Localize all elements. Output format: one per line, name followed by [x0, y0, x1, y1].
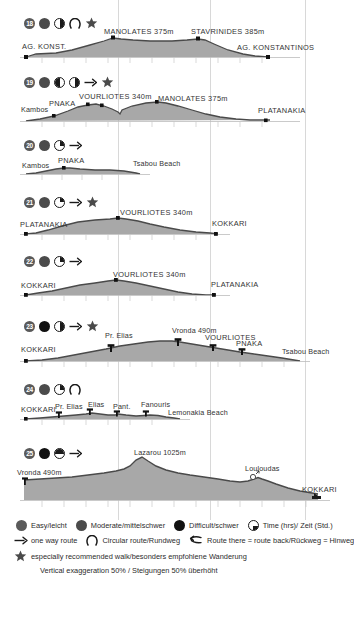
place-label: STAVRINIDES 385m [191, 27, 265, 36]
legend-row-difficulty: Easy/leicht Moderate/mittelschwer Diffic… [0, 520, 354, 531]
legend-label: Moderate/mittelschwer [91, 520, 165, 531]
clock-icon [54, 448, 65, 459]
place-label: Kambos [21, 105, 48, 114]
recommended-star-icon [86, 320, 99, 332]
legend-item-easy: Easy/leicht [16, 520, 67, 531]
place-label: PLATANAKIA [211, 280, 259, 289]
route-number-badge: 20 [24, 140, 35, 151]
legend-label: Easy/leicht [31, 520, 67, 531]
legend-label: Difficult/schwer [189, 520, 239, 531]
profile-block-21: 21 [0, 192, 354, 247]
difficulty-moderate-icon [39, 140, 50, 151]
difficulty-moderate-icon [39, 18, 50, 29]
difficulty-difficult-icon [39, 321, 50, 332]
place-label: Tsabou Beach [133, 159, 180, 168]
difficulty-easy-icon [16, 520, 27, 531]
place-label: KOKKARI [212, 219, 247, 228]
place-label: PLATANAKIA [20, 220, 68, 229]
clock-icon [54, 18, 65, 29]
place-label: VOURLIOTES 340m [120, 208, 193, 217]
legend-item-there-and-back: Route there = route back/Rückweg = Hinwe… [189, 535, 354, 546]
place-label: Lemonakia Beach [168, 408, 228, 417]
place-label: Pr. Elias [105, 331, 133, 340]
profile-block-25: 25 [0, 440, 354, 518]
legend-row-recommended: especially recommended walk/besonders em… [0, 550, 354, 562]
route-number-badge: 21 [24, 197, 35, 208]
place-label: KOKKARI [21, 281, 56, 290]
difficulty-moderate-icon [39, 197, 50, 208]
place-label: KOKKARI [21, 405, 56, 414]
legend-row-route-types: one way route Circular route/Rundweg Rou… [0, 535, 354, 546]
icon-row-21: 21 [24, 196, 99, 208]
difficulty-difficult-icon [174, 520, 185, 531]
place-label: PLATANAKIA [258, 106, 306, 115]
legend-label: Time (hrs)/ Zeit (Std.) [263, 520, 333, 531]
vertical-exaggeration-note: Vertical exaggeration 50% / Steigungen 5… [0, 566, 354, 575]
route-number-badge: 23 [24, 321, 35, 332]
one-way-arrow-icon [69, 321, 82, 332]
icon-row-25: 25 [24, 448, 82, 459]
one-way-arrow-icon [69, 197, 82, 208]
profile-block-23: 23 [0, 316, 354, 374]
difficulty-difficult-icon [39, 448, 50, 459]
clock-icon [54, 321, 65, 332]
difficulty-moderate-icon [76, 520, 87, 531]
legend-item-one-way: one way route [14, 535, 77, 546]
legend-label: Route there = route back/Rückweg = Hinwe… [207, 535, 354, 546]
legend-label: Circular route/Rundweg [102, 535, 180, 546]
circular-route-icon [69, 18, 81, 29]
elevation-profiles-page: 18 [0, 0, 354, 617]
place-label: Louloudas [245, 464, 280, 473]
place-label: PNAKA [58, 156, 85, 165]
icon-row-18: 18 [24, 17, 98, 29]
legend-item-difficult: Difficult/schwer [174, 520, 239, 531]
one-way-arrow-icon [14, 535, 27, 546]
icon-row-20: 20 [24, 140, 82, 151]
clock-icon [54, 77, 65, 88]
one-way-arrow-icon [69, 448, 82, 459]
place-label: VOURLIOTES 340m [79, 92, 152, 101]
route-number-badge: 19 [24, 77, 35, 88]
legend: Easy/leicht Moderate/mittelschwer Diffic… [0, 520, 354, 575]
place-label: Tsabou Beach [282, 347, 329, 356]
difficulty-moderate-icon [39, 77, 50, 88]
icon-row-22: 22 [24, 256, 82, 267]
one-way-arrow-icon [84, 77, 97, 88]
place-label: AG. KONSTANTINOS [237, 43, 314, 52]
place-label: MANOLATES 375m [158, 94, 228, 103]
legend-item-circular: Circular route/Rundweg [86, 535, 180, 546]
difficulty-moderate-icon [39, 384, 50, 395]
icon-row-19: 19 [24, 76, 114, 88]
place-label: Pant. [113, 402, 131, 411]
recommended-star-icon [86, 196, 99, 208]
route-number-badge: 24 [24, 384, 35, 395]
difficulty-moderate-icon [39, 256, 50, 267]
clock-icon [54, 197, 65, 208]
icon-row-23: 23 [24, 320, 99, 332]
legend-label: one way route [31, 535, 77, 546]
clock-icon [54, 384, 65, 395]
profile-block-20: 20 Kambos PNAKA Tsabou Beach [0, 137, 354, 189]
place-label: Vronda 490m [17, 468, 62, 477]
clock-icon [54, 140, 65, 151]
place-label: Elias [88, 400, 104, 409]
one-way-arrow-icon [69, 256, 82, 267]
place-label: PNAKA [236, 339, 263, 348]
legend-label: especially recommended walk/besonders em… [31, 551, 247, 562]
place-label: VOURLIOTES 340m [113, 270, 186, 279]
two-way-arrow-icon [189, 535, 203, 546]
place-label: AG. KONST. [22, 42, 66, 51]
icon-row-24: 24 [24, 384, 81, 395]
place-label: MANOLATES 375m [104, 27, 174, 36]
profile-block-22: 22 KOKKARI [0, 252, 354, 307]
clock-icon [248, 520, 259, 531]
profile-block-19: 19 [0, 72, 354, 130]
place-label: Fanouris [141, 400, 170, 409]
recommended-star-icon [85, 17, 98, 29]
recommended-star-icon [14, 550, 27, 562]
circular-route-icon [69, 384, 81, 395]
legend-item-recommended: especially recommended walk/besonders em… [14, 550, 247, 562]
profile-block-24: 24 KOKK [0, 381, 354, 433]
legend-item-time: Time (hrs)/ Zeit (Std.) [248, 520, 333, 531]
place-label: KOKKARI [302, 485, 337, 494]
